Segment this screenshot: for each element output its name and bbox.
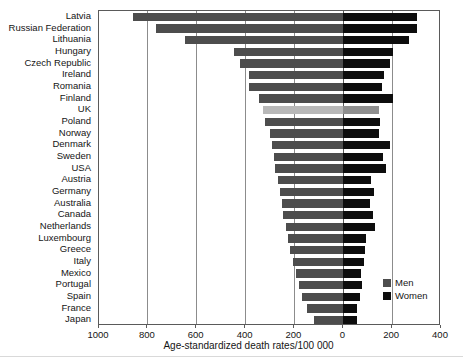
bar-women[interactable]	[343, 48, 392, 57]
bar-men[interactable]	[185, 36, 344, 45]
chart-legend: Men Women	[383, 276, 435, 302]
bar-row[interactable]	[99, 186, 439, 198]
x-tick-label: 400	[432, 329, 448, 340]
bar-men[interactable]	[265, 118, 343, 127]
bar-men[interactable]	[272, 141, 343, 150]
bar-men[interactable]	[302, 293, 343, 302]
bar-women[interactable]	[343, 316, 356, 325]
bar-men[interactable]	[278, 176, 343, 185]
bar-women[interactable]	[343, 246, 364, 255]
bar-row[interactable]	[99, 23, 439, 35]
bar-row[interactable]	[99, 58, 439, 70]
bar-men[interactable]	[307, 304, 344, 313]
bar-men[interactable]	[296, 269, 343, 278]
y-axis-label: Norway	[59, 127, 91, 139]
bar-row[interactable]	[99, 11, 439, 23]
x-tick-mark	[391, 325, 392, 328]
bar-men[interactable]	[290, 246, 343, 255]
bar-women[interactable]	[343, 188, 374, 197]
legend-label-men: Men	[395, 276, 413, 289]
bar-row[interactable]	[99, 151, 439, 163]
bar-row[interactable]	[99, 198, 439, 210]
bar-row[interactable]	[99, 174, 439, 186]
bar-women[interactable]	[343, 71, 384, 80]
x-tick-mark	[244, 325, 245, 328]
bar-women[interactable]	[343, 293, 360, 302]
bar-women[interactable]	[343, 118, 380, 127]
bar-women[interactable]	[343, 129, 379, 138]
bar-women[interactable]	[343, 141, 390, 150]
bar-men[interactable]	[263, 106, 344, 115]
bar-women[interactable]	[343, 304, 357, 313]
bar-row[interactable]	[99, 256, 439, 268]
bar-row[interactable]	[99, 303, 439, 315]
bar-row[interactable]	[99, 46, 439, 58]
bar-men[interactable]	[286, 223, 343, 232]
chart-root: LatviaRussian FederationLithuaniaHungary…	[0, 0, 463, 361]
bar-men[interactable]	[293, 258, 343, 267]
bar-row[interactable]	[99, 163, 439, 175]
bar-row[interactable]	[99, 209, 439, 221]
y-axis-label: Finland	[60, 92, 91, 104]
bar-men[interactable]	[288, 234, 344, 243]
bar-row[interactable]	[99, 233, 439, 245]
bar-men[interactable]	[259, 94, 343, 103]
bar-women[interactable]	[343, 234, 366, 243]
bar-women[interactable]	[343, 36, 408, 45]
bar-men[interactable]	[240, 59, 343, 68]
y-axis-label: Ireland	[62, 68, 91, 80]
y-axis-label: Australia	[54, 197, 91, 209]
bar-women[interactable]	[343, 176, 370, 185]
bar-women[interactable]	[343, 164, 386, 173]
y-axis-label: Canada	[58, 208, 91, 220]
bar-row[interactable]	[99, 139, 439, 151]
bar-women[interactable]	[343, 83, 381, 92]
y-axis-label: Portugal	[56, 278, 91, 290]
bar-men[interactable]	[275, 164, 343, 173]
bar-women[interactable]	[343, 106, 378, 115]
bar-women[interactable]	[343, 281, 362, 290]
bar-women[interactable]	[343, 199, 369, 208]
bar-women[interactable]	[343, 13, 416, 22]
bar-men[interactable]	[133, 13, 343, 22]
bar-row[interactable]	[99, 69, 439, 81]
bar-row[interactable]	[99, 116, 439, 128]
bar-men[interactable]	[283, 211, 343, 220]
bar-row[interactable]	[99, 244, 439, 256]
bar-row[interactable]	[99, 93, 439, 105]
bar-women[interactable]	[343, 59, 390, 68]
legend-item-men[interactable]: Men	[383, 276, 435, 289]
bar-women[interactable]	[343, 258, 364, 267]
y-axis-label: Sweden	[57, 150, 91, 162]
bar-women[interactable]	[343, 94, 393, 103]
bar-women[interactable]	[343, 24, 416, 33]
bar-men[interactable]	[314, 316, 343, 325]
bar-men[interactable]	[274, 153, 344, 162]
bar-women[interactable]	[343, 211, 372, 220]
y-axis-label: Germany	[52, 185, 91, 197]
y-axis-label: Luxembourg	[38, 232, 91, 244]
x-tick-label: 200	[383, 329, 399, 340]
bar-men[interactable]	[270, 129, 343, 138]
bar-women[interactable]	[343, 223, 375, 232]
bar-row[interactable]	[99, 128, 439, 140]
y-axis-label: Lithuania	[52, 33, 91, 45]
bar-row[interactable]	[99, 81, 439, 93]
x-tick-mark	[98, 325, 99, 328]
x-tick-mark	[146, 325, 147, 328]
bar-men[interactable]	[249, 71, 343, 80]
bar-men[interactable]	[280, 188, 344, 197]
bar-row[interactable]	[99, 221, 439, 233]
bar-men[interactable]	[282, 199, 344, 208]
bar-women[interactable]	[343, 269, 361, 278]
bar-men[interactable]	[234, 48, 343, 57]
bar-women[interactable]	[343, 153, 383, 162]
legend-item-women[interactable]: Women	[383, 289, 435, 302]
bar-row[interactable]	[99, 104, 439, 116]
bar-men[interactable]	[156, 24, 343, 33]
x-axis-title-text: Age-standardized death rates/100 000	[163, 340, 333, 351]
bar-men[interactable]	[249, 83, 343, 92]
y-axis-label: USA	[71, 162, 91, 174]
bar-row[interactable]	[99, 34, 439, 46]
bar-men[interactable]	[299, 281, 343, 290]
